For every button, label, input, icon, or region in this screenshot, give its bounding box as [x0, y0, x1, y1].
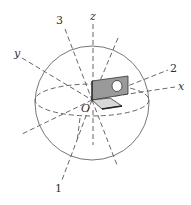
origin-label: O — [81, 102, 90, 115]
axis-3 — [65, 29, 92, 100]
x-axis-label: x — [178, 80, 185, 93]
axis-1-label: 1 — [55, 182, 62, 195]
y-axis-label: y — [13, 47, 21, 60]
axis-3-lower — [92, 100, 117, 165]
axis-3-label: 3 — [56, 14, 63, 27]
axis-aux — [77, 118, 80, 142]
z-axis-label: z — [89, 10, 96, 23]
bracket-vertical-plate — [92, 76, 128, 100]
sphere-outline — [35, 46, 149, 160]
diagram-canvas: z 3 y 2 x 1 O — [0, 0, 191, 205]
y-axis — [22, 58, 92, 100]
bracket-hole — [112, 81, 122, 92]
axis-2-label: 2 — [170, 62, 177, 75]
